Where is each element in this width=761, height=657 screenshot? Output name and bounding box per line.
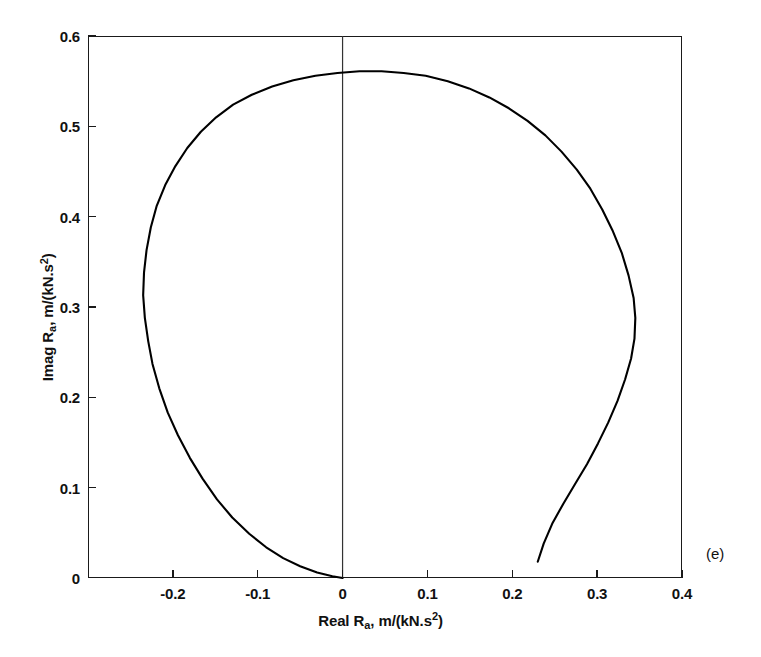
figure-container: -0.2-0.100.10.20.30.4 00.10.20.30.40.50.…	[0, 0, 761, 657]
x-axis-ticklabel: 0.1	[417, 585, 437, 602]
data-series-nyquist-curve	[143, 71, 635, 578]
x-axis-title-prefix: Real R	[318, 612, 364, 629]
y-axis-tick	[88, 306, 96, 307]
y-axis-title: Imag Ra, m/(kN.s2)	[38, 57, 59, 577]
y-axis-tick	[88, 487, 96, 488]
panel-label: (e)	[706, 545, 724, 562]
x-axis-ticklabel: -0.2	[160, 585, 185, 602]
x-axis-ticklabel: 0	[338, 585, 346, 602]
y-axis-title-prefix: Imag R	[39, 332, 56, 381]
y-axis-tick	[88, 126, 96, 127]
y-axis-ticklabel: 0.6	[32, 28, 80, 45]
x-axis-tick	[427, 570, 428, 578]
x-axis-ticklabel: 0.4	[672, 585, 692, 602]
x-axis-tick	[257, 570, 258, 578]
x-axis-tick	[512, 570, 513, 578]
y-axis-title-superscript: 2	[38, 258, 50, 264]
x-axis-ticklabel: 0.3	[587, 585, 607, 602]
y-axis-title-suffix: , m/(kN.s	[39, 264, 56, 326]
y-axis-title-subscript: a	[46, 326, 58, 332]
x-axis-ticklabel: -0.1	[245, 585, 270, 602]
x-axis-tick	[681, 570, 682, 578]
x-axis-tick	[172, 570, 173, 578]
y-axis-title-tail: )	[39, 253, 56, 258]
y-axis-tick	[88, 35, 96, 36]
x-axis-title-suffix: , m/(kN.s	[370, 612, 432, 629]
y-axis-tick	[88, 397, 96, 398]
x-axis-tick	[342, 570, 343, 578]
x-axis-ticklabel: 0.2	[502, 585, 522, 602]
y-axis-tick	[88, 216, 96, 217]
plot-canvas	[88, 36, 682, 578]
x-axis-tick	[596, 570, 597, 578]
x-axis-title-tail: )	[438, 612, 443, 629]
x-axis-title: Real Ra, m/(kN.s2)	[0, 610, 761, 631]
